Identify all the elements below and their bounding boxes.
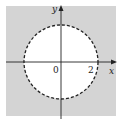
y-axis-label: y (51, 4, 58, 14)
origin-label: 0 (53, 65, 59, 75)
region-diagram: y x 0 2 (0, 0, 123, 122)
x-tick-label-2: 2 (88, 65, 94, 75)
x-axis-label: x (109, 66, 114, 76)
